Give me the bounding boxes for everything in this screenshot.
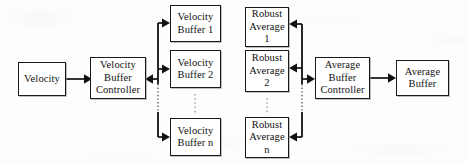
node-velocity-label: Velocity: [22, 73, 62, 85]
node-average-buffer-label: AverageBuffer: [403, 66, 442, 91]
node-velocity-buffer-1-label: VelocityBuffer 1: [176, 11, 216, 36]
node-average-buffer[interactable]: AverageBuffer: [396, 60, 449, 96]
node-velocity-buffer-n-label: VelocityBuffer n: [176, 125, 216, 150]
edge-average-buffer-controller-to-average-buffer: [370, 73, 396, 83]
edge-velocity-bus-to-buffer-n: [158, 132, 170, 141]
edge-average-bus-to-robust-average-1: [289, 19, 302, 28]
node-robust-average-1[interactable]: RobustAverage1: [245, 7, 289, 47]
node-velocity-buffer-controller[interactable]: VelocityBufferController: [90, 57, 146, 99]
edge-velocity-bus-to-controller: [145, 74, 158, 84]
node-velocity-buffer-2-label: VelocityBuffer 2: [176, 57, 216, 82]
edge-velocity-to-velocity-buffer-controller: [66, 74, 92, 84]
block-diagram-canvas: Velocity VelocityBufferController Veloci…: [0, 0, 469, 163]
node-robust-average-2[interactable]: RobustAverage2: [245, 50, 289, 92]
node-velocity-buffer-1[interactable]: VelocityBuffer 1: [170, 5, 221, 42]
node-velocity-buffer-controller-label: VelocityBufferController: [94, 59, 142, 96]
node-average-buffer-controller[interactable]: AverageBufferController: [315, 57, 370, 99]
node-velocity-buffer-2[interactable]: VelocityBuffer 2: [170, 50, 221, 88]
edge-velocity-bus-to-buffer-1: [158, 18, 170, 27]
node-velocity[interactable]: Velocity: [18, 62, 66, 96]
edge-velocity-bus-to-buffer-2: [158, 64, 170, 73]
node-robust-average-1-label: RobustAverage1: [247, 8, 286, 45]
edge-average-bus-to-robust-average-n: [289, 132, 302, 141]
edge-average-bus-to-average-buffer-controller: [302, 74, 315, 84]
node-average-buffer-controller-label: AverageBufferController: [318, 59, 366, 96]
edge-average-bus-to-robust-average-2: [289, 63, 302, 72]
node-robust-average-2-label: RobustAverage2: [247, 52, 286, 89]
node-robust-average-n-label: RobustAveragen: [247, 119, 286, 156]
node-velocity-buffer-n[interactable]: VelocityBuffer n: [170, 118, 221, 156]
node-robust-average-n[interactable]: RobustAveragen: [245, 117, 289, 158]
